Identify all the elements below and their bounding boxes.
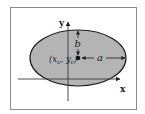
y-axis-label: y [58,18,65,28]
x-axis-label: x [120,84,126,94]
semi-major-label: a [97,52,103,63]
semi-minor-label: b [75,38,81,49]
diagram-frame: x y b a (xc, yc) [0,0,145,114]
center-label: (xc, yc) [49,54,77,65]
